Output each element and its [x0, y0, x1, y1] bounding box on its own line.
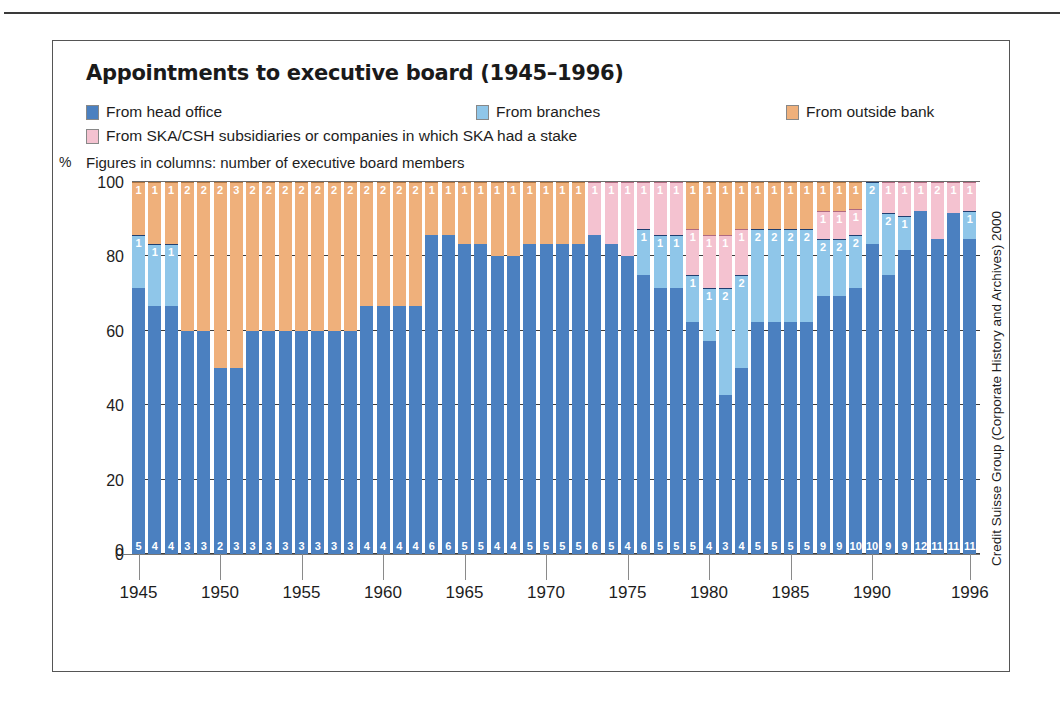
bar-segment-value: 5 [605, 540, 618, 552]
bar-segment-value: 3 [230, 540, 243, 552]
bar-segment-value: 1 [621, 184, 634, 196]
bar-segment-branch: 2 [833, 239, 846, 296]
x-axis-tick-label-1990: 1990 [853, 583, 891, 603]
bar-column: 32 [295, 182, 308, 554]
bar-column: 61 [588, 182, 601, 554]
bar-column: 3211 [719, 182, 732, 554]
bar-segment-value: 2 [328, 184, 341, 196]
x-axis-line [132, 554, 980, 555]
bar-column: 521 [768, 182, 781, 554]
bar-segment-value: 1 [670, 184, 683, 196]
bar-segment-value: 1 [523, 184, 536, 196]
bar-segment-value: 2 [311, 184, 324, 196]
x-axis-tick-1955 [302, 554, 303, 580]
bar-segment-sub: 1 [605, 182, 618, 244]
bar-segment-value: 1 [686, 277, 699, 289]
bar-column: 521 [751, 182, 764, 554]
bar-segment-sub: 1 [833, 211, 846, 240]
bar-segment-value: 1 [800, 184, 813, 196]
bar-segment-head: 3 [295, 331, 308, 554]
bar-segment-outside: 1 [703, 182, 716, 235]
bar-segment-branch: 1 [132, 235, 145, 288]
bar-segment-head: 4 [165, 306, 178, 554]
bar-segment-sub: 1 [735, 229, 748, 276]
bar-segment-branch: 2 [882, 213, 895, 275]
bar-segment-value: 4 [703, 540, 716, 552]
bar-segment-branch: 1 [148, 244, 161, 306]
bar-segment-branch: 2 [866, 182, 879, 244]
bar-segment-head: 5 [654, 288, 667, 554]
bar-segment-value: 6 [442, 540, 455, 552]
bar-segment-value: 2 [751, 231, 764, 243]
bar-segment-value: 2 [768, 231, 781, 243]
bar-segment-value: 5 [572, 540, 585, 552]
bar-segment-value: 3 [328, 540, 341, 552]
bar-segment-outside: 2 [360, 182, 373, 306]
bar-segment-value: 3 [246, 540, 259, 552]
bar-segment-head: 4 [409, 306, 422, 554]
bar-column: 51 [605, 182, 618, 554]
bar-segment-value: 4 [360, 540, 373, 552]
bar-segment-value: 3 [311, 540, 324, 552]
bar-column: 33 [230, 182, 243, 554]
bar-segment-outside: 2 [295, 182, 308, 331]
bar-column: 611 [637, 182, 650, 554]
bar-segment-head: 11 [931, 239, 944, 554]
bar-segment-head: 11 [963, 239, 976, 554]
bar-segment-value: 1 [898, 218, 911, 230]
bar-segment-branch: 2 [784, 229, 797, 322]
bar-segment-value: 1 [768, 184, 781, 196]
y-axis-tick-label-60: 60 [80, 323, 124, 341]
bar-segment-value: 1 [784, 184, 797, 196]
bar-segment-head: 5 [540, 244, 553, 554]
bar-segment-value: 1 [654, 184, 667, 196]
bar-segment-outside: 2 [409, 182, 422, 306]
bar-segment-branch: 1 [703, 288, 716, 341]
bar-segment-outside: 2 [262, 182, 275, 331]
bar-segment-value: 1 [849, 211, 862, 223]
bar-segment-head: 5 [556, 244, 569, 554]
bar-column: 42 [377, 182, 390, 554]
bar-column: 1111 [963, 182, 976, 554]
x-axis-tick-label-1985: 1985 [772, 583, 810, 603]
bar-segment-branch: 2 [768, 229, 781, 322]
bar-segment-value: 1 [914, 184, 927, 196]
bar-segment-outside: 3 [230, 182, 243, 368]
bar-segment-head: 4 [703, 341, 716, 554]
bar-segment-value: 10 [866, 540, 879, 552]
bar-segment-head: 6 [588, 235, 601, 554]
bar-segment-value: 3 [181, 540, 194, 552]
bar-segment-outside: 1 [442, 182, 455, 235]
bar-segment-value: 1 [963, 184, 976, 196]
bar-segment-head: 4 [393, 306, 406, 554]
bar-segment-head: 12 [914, 211, 927, 554]
bar-column: 41 [621, 182, 634, 554]
bar-segment-sub: 1 [914, 182, 927, 211]
bar-segment-branch: 1 [963, 211, 976, 240]
legend-label: From SKA/CSH subsidiaries or companies i… [106, 127, 577, 145]
bar-segment-outside: 1 [540, 182, 553, 244]
bar-segment-outside: 1 [148, 182, 161, 244]
bar-segment-value: 9 [817, 540, 830, 552]
bar-segment-value: 1 [654, 237, 667, 249]
bar-segment-head: 4 [735, 368, 748, 554]
legend-label: From head office [106, 103, 222, 121]
bar-column: 4211 [735, 182, 748, 554]
bar-segment-outside: 1 [425, 182, 438, 235]
chart-title: Appointments to executive board (1945–19… [86, 61, 624, 85]
bar-segment-value: 3 [295, 540, 308, 552]
bar-segment-head: 3 [344, 331, 357, 554]
x-axis-tick-label-1980: 1980 [690, 583, 728, 603]
bar-segment-outside: 2 [311, 182, 324, 331]
bar-segment-outside: 2 [246, 182, 259, 331]
x-axis-tick-label-1970: 1970 [527, 583, 565, 603]
bar-segment-branch: 1 [898, 216, 911, 250]
y-axis-tick-label-40: 40 [80, 397, 124, 415]
bar-segment-value: 11 [963, 540, 976, 552]
bar-segment-value: 1 [882, 184, 895, 196]
bar-column: 9211 [817, 182, 830, 554]
bar-segment-outside: 2 [197, 182, 210, 331]
bar-column: 32 [344, 182, 357, 554]
bar-segment-value: 12 [914, 540, 927, 552]
bar-segment-value: 4 [377, 540, 390, 552]
